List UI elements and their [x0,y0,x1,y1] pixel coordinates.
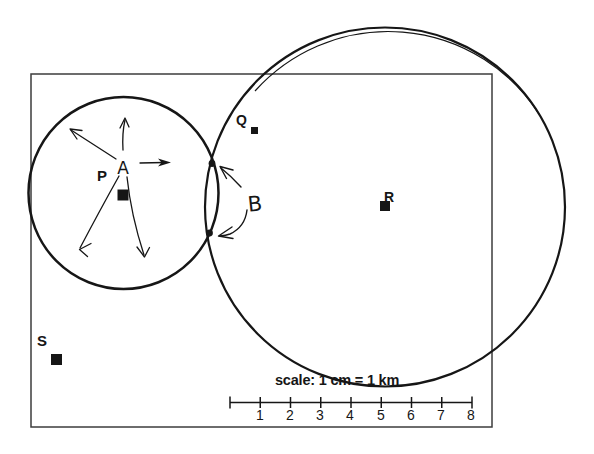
scale-tick-labels: 1 2 3 4 5 6 7 8 [256,407,475,423]
arrow-head [70,129,82,139]
scale-bar [230,397,472,409]
radius-arrow-lower-left [80,176,120,257]
scale-tick-label: 7 [437,407,445,423]
scale-tick-label: 6 [407,407,415,423]
intersection-point-top [209,160,216,167]
point-markers [51,127,390,365]
scale-tick-label: 3 [316,407,324,423]
label-a: A [117,158,129,178]
arrow-line [80,176,119,248]
point-s-marker [51,354,62,365]
arrow-line [140,163,164,164]
b-pointer-arrows [219,167,248,239]
b-pointer-arrow-bottom [219,210,248,239]
circles [29,28,566,387]
scale-tick-label: 1 [256,407,264,423]
scale-tick-label: 5 [377,407,385,423]
diagram-canvas: P Q R S A B scale: 1 cm = 1 km 1 2 3 4 5… [0,0,594,454]
radius-arrow-down [127,177,150,257]
large-circle-overstroke [255,32,539,114]
radius-arrow-upper-left [70,129,116,159]
scale-tick-label: 2 [286,407,294,423]
radius-arrows [70,118,171,257]
arrow-line [221,168,241,187]
radius-arrow-right [140,159,171,167]
radius-arrow-up [120,118,129,150]
map-diagram: P Q R S A B scale: 1 cm = 1 km 1 2 3 4 5… [0,0,594,454]
point-q-marker [251,127,258,134]
arrow-line [71,130,116,159]
label-b: B [246,191,263,216]
scale-tick-label: 8 [467,407,475,423]
point-p-marker [118,190,129,201]
b-pointer-arrow-top [220,167,241,188]
arrow-head [219,227,234,239]
point-q-label: Q [236,112,247,128]
arrow-line [123,120,125,150]
arrow-line [127,177,144,255]
point-p-label: P [97,167,107,184]
label-layer: P Q R S A B scale: 1 cm = 1 km 1 2 3 4 5… [37,112,475,423]
scale-tick-label: 4 [346,407,354,423]
intersection-point-bottom [206,230,213,237]
point-r-marker [380,201,390,211]
point-s-label: S [37,332,47,349]
map-boundary-rect [31,74,492,427]
